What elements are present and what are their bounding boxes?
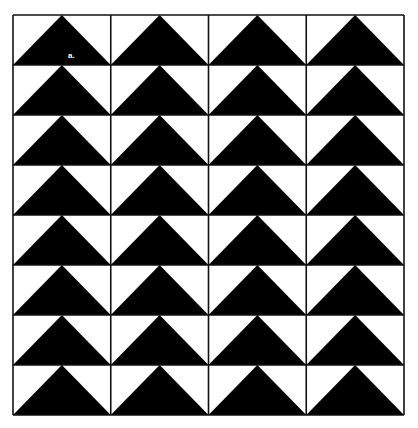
goose-triangle: [111, 265, 209, 315]
goose-triangle: [306, 115, 404, 165]
goose-triangle: [306, 15, 404, 65]
goose-triangle: [306, 65, 404, 115]
goose-triangle: [209, 115, 307, 165]
goose-triangle: [209, 215, 307, 265]
goose-triangle: [13, 315, 111, 365]
goose-triangle: [209, 365, 307, 415]
goose-triangle: [306, 265, 404, 315]
goose-triangle: [306, 215, 404, 265]
figure-label: a.: [68, 52, 75, 60]
goose-triangle: [13, 265, 111, 315]
goose-triangle: [209, 165, 307, 215]
goose-triangle: [306, 315, 404, 365]
goose-triangle: [111, 365, 209, 415]
goose-triangle: [209, 15, 307, 65]
quilt-pattern: [0, 0, 418, 428]
goose-triangle: [111, 215, 209, 265]
goose-triangle: [13, 215, 111, 265]
goose-triangle: [111, 115, 209, 165]
goose-triangle: [111, 315, 209, 365]
goose-triangle: [13, 15, 111, 65]
goose-triangle: [13, 365, 111, 415]
goose-triangle: [13, 65, 111, 115]
goose-triangle: [306, 165, 404, 215]
goose-triangle: [111, 65, 209, 115]
goose-triangle: [209, 65, 307, 115]
goose-triangle: [13, 115, 111, 165]
goose-triangle: [209, 265, 307, 315]
goose-triangle: [13, 165, 111, 215]
goose-triangle: [111, 15, 209, 65]
goose-triangle: [306, 365, 404, 415]
goose-triangle: [209, 315, 307, 365]
goose-triangle: [111, 165, 209, 215]
